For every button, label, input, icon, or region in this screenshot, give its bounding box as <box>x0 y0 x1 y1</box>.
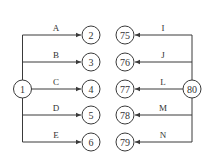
left-group: A B C D E 1 2 3 <box>14 23 101 151</box>
node-79: 79 <box>116 133 134 151</box>
node-77-label: 77 <box>120 84 130 95</box>
node-6-label: 6 <box>89 137 94 148</box>
edge-label-d: D <box>53 103 60 113</box>
node-76: 76 <box>116 53 134 71</box>
edge-l: L <box>135 77 183 89</box>
node-80: 80 <box>183 80 201 98</box>
edge-label-b: B <box>53 50 59 60</box>
edge-label-l: L <box>160 77 166 87</box>
node-5-label: 5 <box>89 110 94 121</box>
node-4: 4 <box>82 80 100 98</box>
edge-label-c: C <box>53 77 59 87</box>
node-75-label: 75 <box>120 30 130 41</box>
edge-label-a: A <box>53 23 60 33</box>
node-6: 6 <box>82 133 100 151</box>
node-diagram: A B C D E 1 2 3 <box>0 0 214 162</box>
right-group: I J L M N 80 75 76 <box>116 23 201 151</box>
edge-c: C <box>32 77 82 89</box>
node-4-label: 4 <box>89 84 94 95</box>
edge-label-m: M <box>159 103 167 113</box>
node-2-label: 2 <box>89 30 94 41</box>
edge-d: D <box>23 103 82 115</box>
node-76-label: 76 <box>120 57 130 68</box>
node-78: 78 <box>116 106 134 124</box>
node-1: 1 <box>14 80 32 98</box>
edge-j: J <box>135 50 192 62</box>
node-80-label: 80 <box>187 84 197 95</box>
node-79-label: 79 <box>120 137 130 148</box>
edge-e: E <box>23 130 82 142</box>
edge-label-n: N <box>160 130 167 140</box>
node-78-label: 78 <box>120 110 130 121</box>
node-77: 77 <box>116 80 134 98</box>
edge-a: A <box>23 23 82 35</box>
edge-label-i: I <box>162 23 165 33</box>
edge-b: B <box>23 50 82 62</box>
edge-m: M <box>135 103 192 115</box>
edge-label-j: J <box>161 50 165 60</box>
node-3: 3 <box>82 53 100 71</box>
node-75: 75 <box>116 26 134 44</box>
edge-n: N <box>135 130 192 142</box>
edge-i: I <box>135 23 192 35</box>
edge-label-e: E <box>53 130 59 140</box>
node-3-label: 3 <box>89 57 94 68</box>
node-2: 2 <box>82 26 100 44</box>
node-1-label: 1 <box>20 84 25 95</box>
node-5: 5 <box>82 106 100 124</box>
